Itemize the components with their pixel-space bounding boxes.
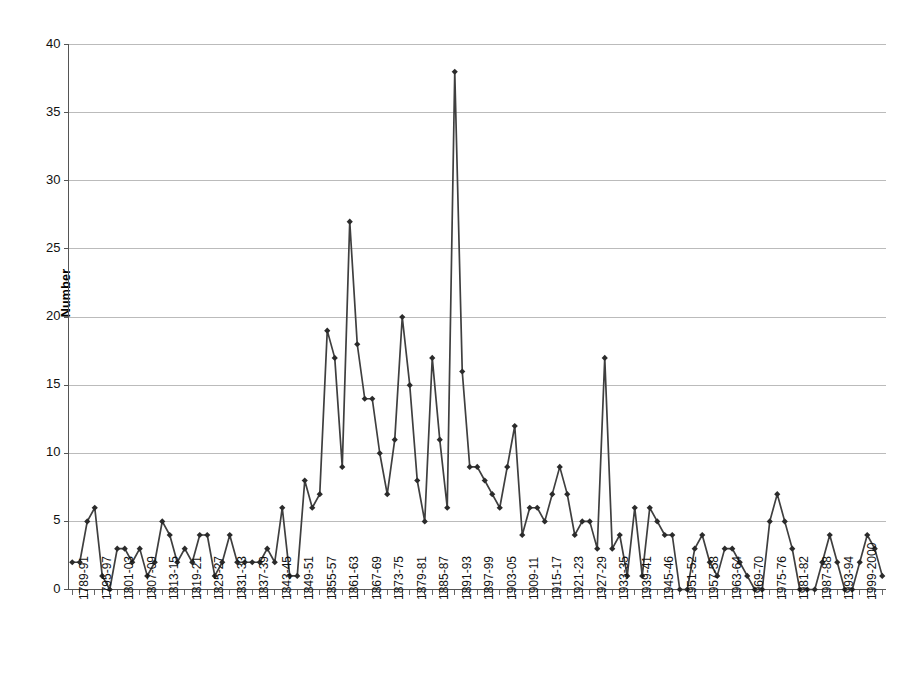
data-point-marker <box>722 546 728 552</box>
data-point-marker <box>504 464 510 470</box>
data-series-line <box>72 72 882 590</box>
data-point-marker <box>857 559 863 565</box>
x-axis-tick-label: 1969-70 <box>752 555 766 599</box>
x-axis-tick-label: 1987-88 <box>820 555 834 599</box>
data-point-marker <box>459 368 465 374</box>
y-axis-tick-label: 15 <box>21 376 61 391</box>
data-point-marker <box>692 546 698 552</box>
data-point-marker <box>167 532 173 538</box>
data-point-marker <box>602 355 608 361</box>
data-point-marker <box>114 546 120 552</box>
data-point-marker <box>782 518 788 524</box>
data-point-marker <box>249 559 255 565</box>
data-point-marker <box>354 341 360 347</box>
data-point-marker <box>422 518 428 524</box>
data-point-marker <box>729 546 735 552</box>
data-point-marker <box>549 491 555 497</box>
x-axis-tick-label: 1813-15 <box>167 555 181 599</box>
data-point-marker <box>69 559 75 565</box>
data-point-marker <box>467 464 473 470</box>
data-point-marker <box>594 546 600 552</box>
data-point-marker <box>182 546 188 552</box>
x-axis-tick-label: 1867-69 <box>370 555 384 599</box>
x-axis-tick-label: 1909-11 <box>527 556 541 599</box>
x-axis-tick-label: 1855-57 <box>325 555 339 599</box>
data-point-marker <box>317 491 323 497</box>
y-axis-tick-label: 40 <box>21 36 61 51</box>
x-axis-tick-label: 1963-64 <box>730 555 744 599</box>
y-axis-tick-label: 20 <box>21 308 61 323</box>
data-point-marker <box>789 546 795 552</box>
data-point-marker <box>452 69 458 75</box>
data-point-marker <box>392 437 398 443</box>
data-point-marker <box>677 586 683 592</box>
data-point-marker <box>489 491 495 497</box>
data-point-marker <box>414 477 420 483</box>
x-axis-tick-label: 1879-81 <box>415 555 429 599</box>
x-axis-tick-label: 1849-51 <box>302 555 316 599</box>
x-axis-tick-label: 1837-39 <box>257 555 271 599</box>
data-point-marker <box>377 450 383 456</box>
x-axis-tick-label: 1921-23 <box>572 555 586 599</box>
data-point-marker <box>474 464 480 470</box>
chart-container: Number 0510152025303540 1789-911795-9718… <box>0 0 905 694</box>
data-point-marker <box>774 491 780 497</box>
data-point-marker <box>834 559 840 565</box>
x-axis-tick-label: 1993-94 <box>842 555 856 599</box>
data-point-marker <box>579 518 585 524</box>
data-point-marker <box>429 355 435 361</box>
data-point-marker <box>557 464 563 470</box>
data-point-marker <box>339 464 345 470</box>
data-point-marker <box>407 382 413 388</box>
data-point-marker <box>534 505 540 511</box>
x-axis-tick-label: 1861-63 <box>347 555 361 599</box>
data-point-marker <box>699 532 705 538</box>
data-point-marker <box>654 518 660 524</box>
data-point-marker <box>302 477 308 483</box>
data-point-marker <box>84 518 90 524</box>
x-axis-tick-label: 1819-21 <box>190 555 204 599</box>
y-axis-tick-label: 10 <box>21 444 61 459</box>
data-point-marker <box>827 532 833 538</box>
data-point-marker <box>864 532 870 538</box>
x-axis-tick-label: 1915-17 <box>550 555 564 599</box>
data-point-marker <box>309 505 315 511</box>
x-axis-tick-label: 1975-76 <box>775 555 789 599</box>
data-point-marker <box>92 505 98 511</box>
data-point-marker <box>632 505 638 511</box>
data-point-marker <box>324 328 330 334</box>
data-point-marker <box>482 477 488 483</box>
data-point-marker <box>617 532 623 538</box>
data-point-marker <box>122 546 128 552</box>
data-point-marker <box>572 532 578 538</box>
data-point-marker <box>767 518 773 524</box>
data-point-marker <box>369 396 375 402</box>
x-axis-tick-label: 1999-2000 <box>865 542 879 599</box>
data-point-marker <box>812 586 818 592</box>
data-point-marker <box>332 355 338 361</box>
x-axis-tick-label: 1795-97 <box>100 555 114 599</box>
y-axis-tick-label: 25 <box>21 240 61 255</box>
x-axis-tick-label: 1807-09 <box>145 555 159 599</box>
x-axis-tick-label: 1951-52 <box>685 555 699 599</box>
x-axis-tick-label: 1801-03 <box>122 555 136 599</box>
data-point-marker <box>204 532 210 538</box>
data-point-marker <box>662 532 668 538</box>
x-axis-tick-label: 1789-91 <box>77 555 91 599</box>
data-point-marker <box>669 532 675 538</box>
data-point-marker <box>527 505 533 511</box>
data-point-marker <box>647 505 653 511</box>
data-point-marker <box>519 532 525 538</box>
data-point-marker <box>362 396 368 402</box>
data-point-marker <box>137 546 143 552</box>
x-axis-tick-label: 1981-82 <box>797 555 811 599</box>
data-point-marker <box>879 573 885 579</box>
x-axis-tick-label: 1825-27 <box>212 555 226 599</box>
data-point-marker <box>542 518 548 524</box>
x-axis-tick-label: 1885-87 <box>437 555 451 599</box>
data-point-marker <box>497 505 503 511</box>
data-point-marker <box>264 546 270 552</box>
y-axis-tick-label: 30 <box>21 172 61 187</box>
x-axis-tick-label: 1831-33 <box>235 555 249 599</box>
data-point-marker <box>437 437 443 443</box>
